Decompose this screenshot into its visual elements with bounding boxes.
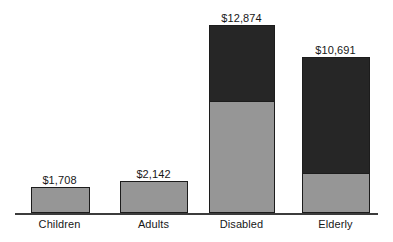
stacked-bar-chart: $1,708 Children $2,142 Adults $12,874 Di… (0, 0, 393, 242)
value-label-adults: $2,142 (115, 168, 192, 181)
x-axis-line (15, 213, 378, 215)
bar-elderly-light-segment (303, 173, 369, 212)
bar-children-light-segment (32, 188, 89, 212)
category-label-adults: Adults (110, 217, 197, 231)
value-label-children: $1,708 (21, 174, 98, 187)
bar-disabled-light-segment (210, 101, 274, 212)
bar-children[interactable] (31, 187, 90, 213)
category-label-disabled: Disabled (198, 217, 285, 231)
value-label-elderly: $10,691 (296, 44, 375, 57)
bar-adults[interactable] (120, 181, 188, 213)
bar-disabled-dark-segment (210, 26, 274, 101)
value-label-disabled: $12,874 (202, 12, 281, 25)
bar-adults-light-segment (121, 182, 187, 212)
bar-elderly-dark-segment (303, 58, 369, 173)
category-label-elderly: Elderly (292, 217, 379, 231)
bar-disabled[interactable] (209, 25, 275, 213)
bar-elderly[interactable] (302, 57, 370, 213)
category-label-children: Children (16, 217, 103, 231)
